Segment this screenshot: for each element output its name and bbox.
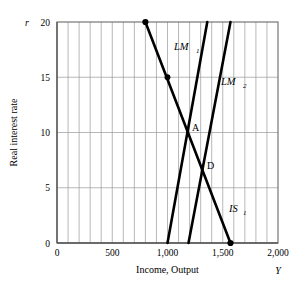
curve-label-lm1-text: LM xyxy=(173,41,190,52)
annotation-point-d: D xyxy=(207,160,214,171)
marker-is1-top xyxy=(142,19,148,25)
y-tick-label-15: 15 xyxy=(41,73,51,83)
marker-is1-bottom xyxy=(227,240,233,246)
x-axis-symbol: Y xyxy=(275,265,282,276)
curve-label-is1-subscript: 1 xyxy=(243,209,247,217)
x-tick-label-1000: 1,000 xyxy=(157,248,179,258)
chart-svg: 20 15 10 5 0 r Real interest rate 0 500 … xyxy=(0,0,307,295)
x-tick-label-500: 500 xyxy=(105,248,120,258)
y-tick-label-0: 0 xyxy=(45,239,50,249)
curve-label-lm2-text: LM xyxy=(220,76,237,87)
y-tick-label-5: 5 xyxy=(45,183,50,193)
x-tick-label-1500: 1,500 xyxy=(212,248,234,258)
y-axis-title: Real interest rate xyxy=(8,98,19,166)
annotation-point-a: A xyxy=(192,122,200,133)
marker-is1-mid xyxy=(165,74,171,80)
curve-label-is1-text: IS xyxy=(228,203,238,214)
x-tick-label-0: 0 xyxy=(55,248,60,258)
is-lm-chart: 20 15 10 5 0 r Real interest rate 0 500 … xyxy=(0,0,307,295)
y-tick-label-10: 10 xyxy=(41,128,51,138)
x-axis-title: Income, Output xyxy=(136,264,199,275)
y-tick-label-20: 20 xyxy=(41,18,51,28)
curve-label-lm1-subscript: 1 xyxy=(196,47,200,55)
x-tick-label-2000: 2,000 xyxy=(267,248,289,258)
curve-label-lm2-subscript: 2 xyxy=(243,82,247,90)
y-axis-symbol: r xyxy=(25,17,29,28)
